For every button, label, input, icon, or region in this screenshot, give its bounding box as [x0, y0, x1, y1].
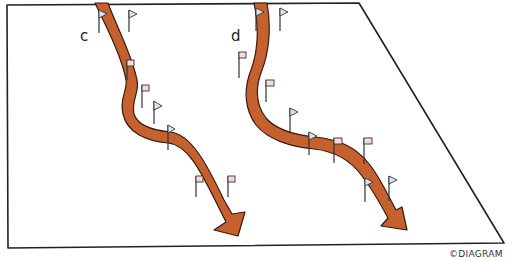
course-c-label: c [80, 27, 88, 45]
course-d-label: d [231, 27, 241, 45]
slalom-diagram: c d [0, 0, 515, 261]
copyright-text: ©DIAGRAM [449, 249, 503, 259]
